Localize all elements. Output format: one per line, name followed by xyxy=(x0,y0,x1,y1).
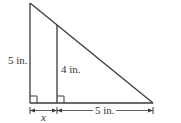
hypotenuse xyxy=(30,3,153,103)
inner-height-label: 4 in. xyxy=(61,63,81,75)
similar-triangles-diagram: 5 in. 4 in. 5 in. x xyxy=(0,0,181,123)
right-angle-marker-left xyxy=(30,96,37,103)
left-height-label: 5 in. xyxy=(8,54,28,66)
base-right-label: 5 in. xyxy=(95,104,115,116)
dimension-line xyxy=(30,107,153,114)
unknown-x-label: x xyxy=(40,111,46,123)
right-angle-marker-inner xyxy=(57,96,64,103)
